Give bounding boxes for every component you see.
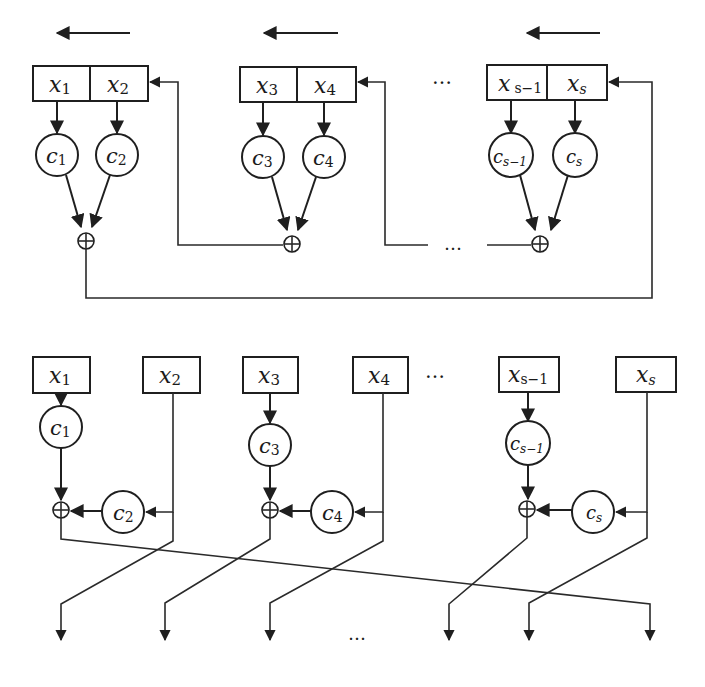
multiplier-c1: c1: [40, 406, 82, 448]
xor-icon: [519, 501, 535, 517]
register-xs: xs: [616, 357, 676, 392]
multiplier-c1: c1: [36, 134, 78, 176]
multiplier-cs-1: cs−1: [506, 421, 550, 465]
ellipsis: …: [425, 359, 445, 383]
multiplier-c3: c3: [249, 424, 291, 466]
bottom-diagram: x1 x2 x3 x4 … xs−1 xs: [33, 357, 676, 644]
ellipsis: …: [348, 623, 366, 644]
ellipsis: …: [432, 65, 452, 89]
xor-icon: [262, 502, 278, 518]
top-xor-nodes: [78, 233, 548, 252]
register-x1: x1: [33, 357, 90, 393]
output-permutation-wires: …: [61, 512, 650, 644]
register-block-s: xs−1 xs: [487, 65, 607, 100]
xor-icon: [53, 502, 69, 518]
register-xs-1: xs−1: [499, 357, 559, 392]
xor-icon: [532, 236, 548, 252]
multiplier-c4: c4: [311, 491, 353, 533]
multiplier-c3: c3: [242, 136, 284, 178]
top-diagram: x1 x2 x3 x4 … xs−1 xs: [33, 33, 652, 298]
tap-arrows: [57, 100, 575, 135]
top-feedback-wires: …: [86, 82, 652, 298]
bottom-registers: x1 x2 x3 x4 … xs−1 xs: [33, 357, 676, 393]
ellipsis: …: [444, 233, 462, 254]
register-x4: x4: [353, 357, 408, 393]
register-block-2: x3 x4: [240, 67, 356, 102]
register-x2: x2: [143, 357, 200, 393]
lfsr-diagram: x1 x2 x3 x4 … xs−1 xs: [0, 0, 705, 687]
multiplier-cs-1: cs−1: [489, 133, 533, 177]
register-x3: x3: [243, 357, 298, 393]
multiplier-cs: cs: [572, 491, 614, 533]
multiplier-cs: cs: [553, 133, 597, 177]
xor-icon: [78, 233, 94, 249]
multiplier-c2: c2: [102, 491, 144, 533]
register-block-1: x1 x2: [33, 66, 148, 101]
xor-icon: [284, 236, 300, 252]
product-arrows: [66, 175, 568, 230]
multiplier-c4: c4: [303, 136, 345, 178]
bottom-taps: [61, 392, 647, 512]
multiplier-c2: c2: [96, 134, 138, 176]
top-multipliers: c1 c2 c3 c4 cs−1 cs: [36, 133, 597, 178]
